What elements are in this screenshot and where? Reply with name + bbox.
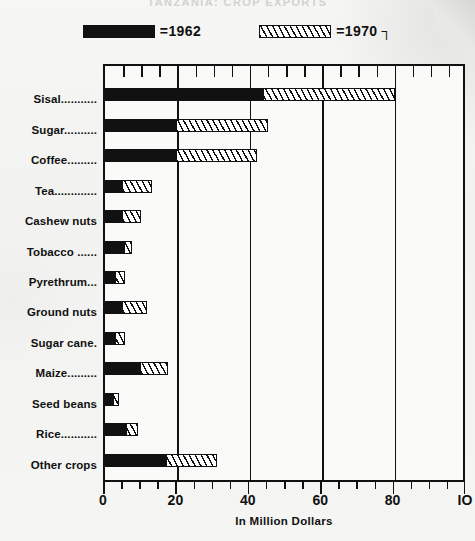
value-axis-labels: 020406080IO xyxy=(0,492,475,510)
value-axis-title: In Million Dollars xyxy=(103,515,465,527)
category-label: Ground nuts xyxy=(27,306,97,318)
bar-rows xyxy=(105,66,463,480)
legend-swatch-solid-icon xyxy=(83,25,155,38)
legend-item-1970: =1970 ┐ xyxy=(259,23,392,39)
x-tick-10 xyxy=(139,482,141,489)
x-tick-55 xyxy=(302,482,304,489)
x-axis-label: 20 xyxy=(168,492,184,508)
category-label: Sugar.......... xyxy=(32,124,97,136)
category-label: Tea............. xyxy=(35,185,97,197)
x-axis-label: 40 xyxy=(240,492,256,508)
bar-row xyxy=(105,417,463,443)
category-label: Maize......... xyxy=(36,367,97,379)
x-tick-65 xyxy=(338,482,340,489)
bar-row xyxy=(105,326,463,352)
bar-row xyxy=(105,295,463,321)
bar-1962 xyxy=(105,362,141,375)
category-label: Other crops xyxy=(31,459,97,471)
category-label: Sisal........... xyxy=(33,93,97,105)
bar-row xyxy=(105,356,463,382)
bar-row xyxy=(105,265,463,291)
category-label: Tobacco ...... xyxy=(27,246,97,258)
bar-row xyxy=(105,82,463,108)
category-label: Cashew nuts xyxy=(25,215,97,227)
bar-1962 xyxy=(105,423,127,436)
bar-1962 xyxy=(105,393,114,406)
x-tick-70 xyxy=(356,482,358,489)
bar-1962 xyxy=(105,271,116,284)
bar-1962 xyxy=(105,332,116,345)
category-label: Coffee......... xyxy=(31,154,97,166)
chart-legend: =1962 =1970 ┐ xyxy=(0,21,475,41)
x-tick-90 xyxy=(429,482,431,489)
bar-1962 xyxy=(105,301,123,314)
bar-1962 xyxy=(105,241,125,254)
x-tick-85 xyxy=(411,482,413,489)
x-axis-label: 0 xyxy=(99,492,107,508)
legend-swatch-hatched-icon xyxy=(259,25,331,38)
x-tick-15 xyxy=(157,482,159,489)
x-axis-label: 60 xyxy=(312,492,328,508)
category-label: Pyrethrum... xyxy=(29,276,97,288)
bar-row xyxy=(105,204,463,230)
bar-1962 xyxy=(105,88,264,101)
legend-item-1962: =1962 xyxy=(83,23,201,39)
category-axis-labels: Sisal...........Sugar..........Coffee...… xyxy=(0,64,100,482)
bar-row xyxy=(105,387,463,413)
legend-label-1962: =1962 xyxy=(160,23,201,39)
legend-label-1970: =1970 ┐ xyxy=(336,23,392,39)
category-label: Seed beans xyxy=(32,398,97,410)
bar-1962 xyxy=(105,454,167,467)
chart-title: TANZANIA: CROP EXPORTS xyxy=(0,0,475,6)
x-tick-35 xyxy=(230,482,232,489)
x-axis-label: IO xyxy=(458,492,473,508)
x-tick-95 xyxy=(447,482,449,489)
x-tick-75 xyxy=(375,482,377,489)
x-tick-30 xyxy=(212,482,214,489)
x-tick-5 xyxy=(121,482,123,489)
category-label: Rice........... xyxy=(36,428,97,440)
bar-1962 xyxy=(105,210,123,223)
x-tick-25 xyxy=(194,482,196,489)
category-label: Sugar cane. xyxy=(31,337,97,349)
bar-row xyxy=(105,143,463,169)
plot-area xyxy=(103,64,465,482)
bar-row xyxy=(105,235,463,261)
x-axis-label: 80 xyxy=(385,492,401,508)
bar-row xyxy=(105,174,463,200)
x-tick-45 xyxy=(266,482,268,489)
x-tick-50 xyxy=(284,482,286,489)
bar-row xyxy=(105,113,463,139)
bar-1962 xyxy=(105,180,123,193)
bar-row xyxy=(105,448,463,474)
bar-1962 xyxy=(105,149,177,162)
bar-1962 xyxy=(105,119,177,132)
